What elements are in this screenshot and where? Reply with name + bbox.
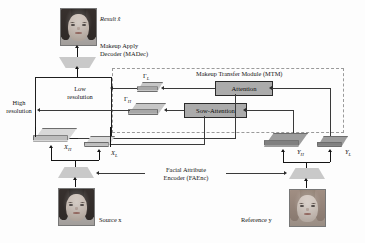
faenc-label-line1: Facial Attribute — [150, 166, 222, 174]
tensor-x-h — [33, 128, 75, 144]
arrowhead-left-sowattention — [243, 108, 246, 112]
connector-frame-right-down — [110, 127, 111, 147]
figure-canvas: Makeup Transfer Module (MTM) Result x̂ M… — [0, 0, 365, 243]
connector-faenc-left-tie — [99, 173, 145, 174]
y-l-subscript: L — [349, 152, 352, 157]
arrowhead-up-yl — [328, 149, 332, 152]
low-resolution-label-line2: resolution — [57, 93, 103, 101]
faenc-label-line2: Encoder (FAEnc) — [150, 174, 222, 182]
x-h-subscript: H — [68, 147, 71, 152]
tensor-y-h — [264, 133, 306, 149]
arrowhead-left-frame-lowres — [110, 86, 113, 90]
connector-ref-enc-to-yh — [283, 152, 284, 162]
tensor-x-h-label: XH — [64, 143, 71, 153]
arrowhead-up-encoder-right — [304, 178, 308, 181]
connector-yl-vertical — [330, 88, 331, 138]
connector-source-enc-to-xl — [99, 152, 100, 160]
madec-label-line2: Decoder (MADec) — [100, 50, 148, 58]
low-resolution-label-line1: Low — [57, 85, 103, 93]
connector-ref-image-to-encoder — [306, 180, 307, 188]
mtm-title: Makeup Transfer Module (MTM) — [196, 70, 282, 78]
y-h-subscript: H — [301, 152, 304, 157]
tensor-gamma-l-label: ΓL — [143, 72, 149, 82]
connector-ref-bus-down — [306, 162, 307, 168]
connector-xl-vertical-attention — [235, 94, 236, 138]
x-l-subscript: L — [115, 153, 118, 158]
arrowhead-up-xh — [49, 145, 53, 148]
arrowhead-left-gamma-l — [161, 86, 164, 90]
attention-block-label: Attention — [232, 85, 257, 92]
gamma-l-subscript: L — [147, 76, 150, 81]
tensor-y-l-label: YL — [345, 148, 351, 158]
connector-frame-to-madec — [77, 68, 78, 77]
high-resolution-label-line1: High — [2, 99, 36, 107]
connector-source-enc-to-xh — [51, 148, 52, 160]
tensor-gamma-l — [137, 82, 161, 93]
arrowhead-left-attention — [269, 86, 272, 90]
tensor-y-l — [317, 136, 346, 149]
connector-sowattention-to-gamma-h — [166, 110, 184, 111]
high-resolution-label-line2: resolution — [2, 107, 36, 115]
arrowhead-up-encoder-left — [73, 177, 77, 180]
arrowhead-right-faenc — [284, 171, 287, 175]
tensor-gamma-h-label: ΓH — [124, 95, 131, 105]
result-label: Result x̂ — [100, 15, 120, 23]
tensor-x-l-label: XL — [111, 149, 117, 159]
arrowhead-left-gamma-h — [164, 108, 167, 112]
reference-image — [289, 189, 326, 227]
result-image — [60, 8, 97, 46]
source-image — [58, 188, 95, 226]
connector-frame-left-down — [35, 127, 36, 137]
arrowhead-left-faenc — [96, 171, 99, 175]
connector-yl-to-attention — [271, 88, 331, 89]
arrowhead-up-yh — [281, 149, 285, 152]
connector-attention-to-gamma-l — [163, 88, 215, 89]
connector-source-bus-down — [75, 160, 76, 167]
sow-attention-block-label: Sow-Attention — [196, 107, 235, 114]
connector-xl-vertical-sowattention — [204, 116, 205, 144]
connector-faenc-right-tie — [226, 173, 284, 174]
connector-gamma-h-to-highres — [40, 110, 130, 111]
madec-label-line1: Makeup Apply — [100, 42, 138, 50]
tensor-gamma-h — [128, 103, 164, 117]
tensor-y-h-label: YH — [297, 148, 304, 158]
connector-madec-to-result — [77, 48, 78, 57]
reference-label: Reference y — [241, 216, 272, 224]
sow-attention-block[interactable]: Sow-Attention — [184, 103, 247, 118]
arrowhead-left-highres — [37, 108, 40, 112]
arrowhead-up-madec — [75, 66, 79, 69]
arrowhead-up-result — [75, 45, 79, 48]
connector-ref-enc-to-yl — [330, 152, 331, 162]
connector-yh-to-sowattention — [245, 110, 294, 111]
arrowhead-up-xl — [97, 149, 101, 152]
gamma-h-subscript: H — [128, 99, 131, 104]
attention-block[interactable]: Attention — [215, 81, 273, 96]
source-label: Source x — [99, 216, 122, 224]
connector-gamma-l-to-frame — [113, 88, 137, 89]
tensor-x-l — [84, 136, 113, 149]
connector-source-image-to-encoder — [75, 179, 76, 187]
